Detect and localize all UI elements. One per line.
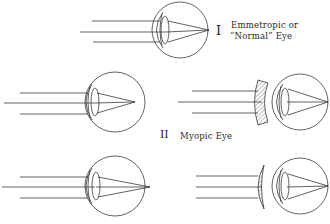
refracted-ray-top xyxy=(168,21,209,30)
panel-II-caption: Myopic Eye xyxy=(180,131,232,141)
crystalline-lens xyxy=(91,88,99,116)
hypermetropic-eye-uncorrected xyxy=(2,156,150,216)
myopic-eye-uncorrected xyxy=(4,72,145,132)
cornea xyxy=(277,84,284,120)
emmetropic-eye xyxy=(80,2,209,58)
panel-II-numeral: II xyxy=(160,128,169,141)
hypermetropic-eye-corrected xyxy=(196,158,328,214)
eyeball xyxy=(85,156,145,216)
refracted-ray-top xyxy=(288,174,328,186)
refracted-ray-top xyxy=(98,177,150,187)
crystalline-lens xyxy=(161,16,169,44)
refracted-ray-axis xyxy=(95,102,135,103)
refracted-ray-top xyxy=(97,93,135,102)
cornea xyxy=(277,168,284,204)
refracted-ray-axis xyxy=(287,186,328,187)
panel-I-caption-line2: “Normal” Eye xyxy=(230,31,292,41)
refracted-ray-bottom xyxy=(288,102,328,115)
concave-corrective-lens xyxy=(255,80,269,125)
refracted-ray-bottom xyxy=(97,102,135,113)
crystalline-lens xyxy=(281,172,289,200)
panel-I-caption-line1: Emmetropic or xyxy=(231,20,298,30)
myopic-eye-corrected xyxy=(178,74,328,130)
panel-I-numeral: I xyxy=(216,23,221,38)
convex-corrective-lens xyxy=(258,165,264,209)
refracted-ray-bottom xyxy=(98,187,150,197)
refracted-ray-top xyxy=(288,89,328,102)
refracted-ray-bottom xyxy=(288,186,328,199)
crystalline-lens xyxy=(92,172,100,200)
eyeball xyxy=(85,72,145,132)
